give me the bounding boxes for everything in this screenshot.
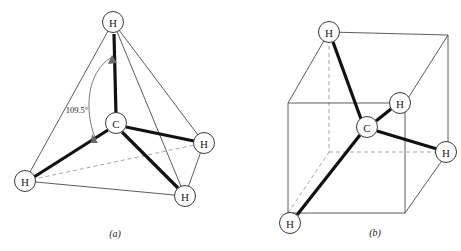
panel-b-svg: H C H H H (b): [230, 0, 461, 251]
edge-htop-hbottom: [113, 22, 185, 196]
panel-b-caption: (b): [369, 227, 381, 239]
panel-b-cube: H C H H H (b): [230, 0, 461, 251]
atom-h-left: H: [15, 171, 36, 192]
bond-c-hbottom: [122, 132, 178, 188]
edge-fronttopright-backtopright: [405, 35, 448, 103]
bond-c-hbottomleft: [297, 135, 360, 215]
atom-label-h: H: [21, 176, 29, 188]
atom-h-right: H: [436, 142, 457, 163]
atom-h-bottom: H: [175, 186, 196, 207]
edge-hleft-hbottom: [25, 181, 185, 196]
atom-label-h: H: [200, 138, 208, 150]
methane-geometry-figure: 109.5° H C H H: [0, 0, 461, 251]
atom-h-right: H: [194, 133, 215, 154]
atom-label-h: H: [396, 98, 404, 110]
atom-label-c: C: [112, 118, 119, 130]
atom-carbon-center: C: [106, 113, 127, 134]
bond-c-htop: [114, 34, 116, 115]
atom-h-topleft: H: [319, 22, 340, 43]
bond-angle-label: 109.5°: [66, 105, 89, 115]
panel-a-caption: (a): [109, 228, 121, 240]
atom-label-h: H: [109, 17, 117, 29]
bond-c-htopleft: [333, 42, 361, 119]
atom-label-c: C: [363, 122, 370, 134]
edge-hleft-hright: [25, 143, 204, 181]
bond-c-hright: [126, 127, 194, 141]
atom-h-top: H: [103, 12, 124, 33]
bond-c-hupperright: [376, 109, 391, 121]
panel-a-tetrahedron: 109.5° H C H H: [0, 0, 230, 251]
bond-c-hleft: [34, 130, 108, 177]
panel-a-svg: 109.5° H C H H: [0, 0, 230, 251]
atom-h-bottomleft: H: [280, 213, 301, 234]
edge-htop-hleft: [25, 22, 113, 181]
atom-label-h: H: [442, 147, 450, 159]
atom-label-h: H: [286, 218, 294, 230]
bond-c-hright: [377, 131, 437, 149]
atom-label-h: H: [325, 27, 333, 39]
atom-h-upperright: H: [390, 93, 411, 114]
edge-backtopleft-backtopright: [329, 32, 448, 35]
panel-a-bonds: [34, 34, 194, 188]
edge-fronttopleft-backtopleft: [288, 32, 329, 103]
atom-carbon-center: C: [357, 117, 378, 138]
atom-label-h: H: [181, 191, 189, 203]
